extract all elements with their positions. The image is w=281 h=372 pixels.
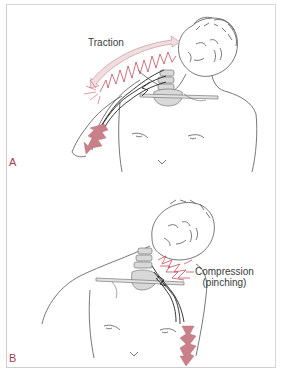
lightning-bolt-icon [84, 124, 108, 154]
lightning-bolt-icon [180, 326, 196, 366]
panel-a-traction: A Traction [0, 0, 281, 186]
panel-b-compression: B Compression (pinching) [0, 186, 281, 372]
panel-letter-a: A [9, 156, 16, 168]
head-illustration [119, 17, 257, 172]
compression-label-line2: (pinching) [195, 277, 254, 288]
traction-label: Traction [88, 37, 124, 48]
compression-label-line1: Compression [195, 266, 254, 277]
panel-letter-b: B [9, 352, 16, 364]
compression-label: Compression (pinching) [195, 266, 254, 288]
traction-illustration [0, 0, 281, 186]
